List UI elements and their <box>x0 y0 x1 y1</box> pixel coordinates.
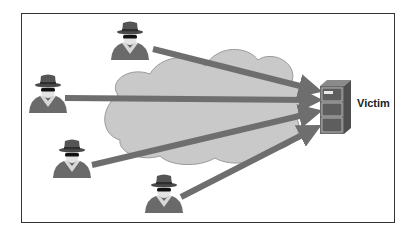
attacker-icon <box>145 175 183 214</box>
ddos-diagram <box>0 0 414 235</box>
victim-label: Victim <box>357 97 390 109</box>
server-icon <box>320 80 351 134</box>
arrow-2 <box>65 98 312 100</box>
attacker-icon <box>111 22 149 61</box>
attacker-icon <box>53 140 91 179</box>
attacker-icon <box>29 75 67 114</box>
